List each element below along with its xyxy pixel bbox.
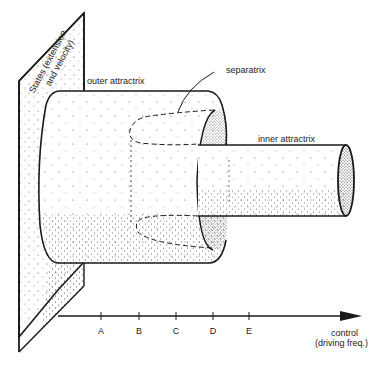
tick-label-b: B (133, 326, 145, 336)
outer-attractrix-label: outer attractrix (87, 76, 145, 86)
control-label-line1: control (321, 328, 368, 338)
tick-label-d: D (207, 326, 219, 336)
tick-label-e: E (243, 326, 255, 336)
inner-attractrix-label: inner attractrix (258, 134, 315, 144)
control-axis (58, 311, 362, 321)
inner-attractrix-cylinder (198, 145, 354, 216)
separatrix-label: separatrix (226, 65, 266, 75)
tick-label-c: C (170, 326, 182, 336)
tick-label-a: A (95, 326, 107, 336)
control-axis-label: control (driving freq.) (321, 328, 368, 348)
control-label-line2: (driving freq.) (315, 338, 368, 348)
